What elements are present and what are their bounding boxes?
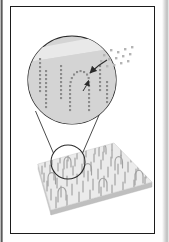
scan-edge-artifact-right bbox=[162, 0, 169, 242]
figure-frame bbox=[10, 6, 155, 234]
figure-page bbox=[0, 0, 169, 242]
magnified-inset-circle bbox=[21, 32, 123, 132]
figure-canvas bbox=[11, 7, 156, 235]
scan-edge-artifact-left bbox=[0, 0, 3, 242]
